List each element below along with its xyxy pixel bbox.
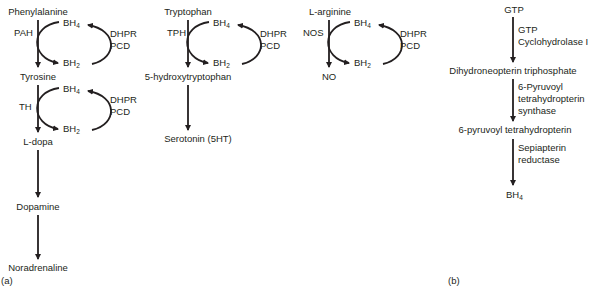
no-label: NO bbox=[322, 71, 336, 82]
6-pyruvoyl-tetrahydropterin-label: 6-pyruvoyl tetrahydropterin bbox=[459, 124, 572, 135]
phenylalanine-label: Phenylalanine bbox=[8, 6, 68, 17]
dihydroneopterin-label: Dihydroneopterin triphosphate bbox=[449, 65, 576, 76]
tph-enzyme-label: TPH bbox=[167, 27, 186, 38]
bh4-label: BH4 bbox=[63, 83, 80, 94]
pah-enzyme-label: PAH bbox=[14, 27, 33, 38]
ptps-label: synthase bbox=[518, 105, 556, 116]
sepiapterin-reductase-label: Sepiapterin bbox=[518, 142, 566, 153]
pcd-label: PCD bbox=[260, 40, 280, 51]
tryptophan-label: Tryptophan bbox=[164, 6, 212, 17]
noradrenaline-label: Noradrenaline bbox=[8, 262, 68, 273]
l-dopa-label: L-dopa bbox=[23, 136, 53, 147]
5-hydroxytryptophan-label: 5-hydroxytryptophan bbox=[145, 71, 232, 82]
dhpr-label: DHPR bbox=[110, 94, 137, 105]
sepiapterin-reductase-label: reductase bbox=[518, 154, 560, 165]
gtp-cyclohydrolase-label: Cyclohydrolase I bbox=[518, 36, 588, 47]
pcd-label: PCD bbox=[110, 40, 130, 51]
gtp-cyclohydrolase-label: GTP bbox=[518, 24, 538, 35]
th-enzyme-label: TH bbox=[19, 101, 32, 112]
bh4-product-label: BH4 bbox=[506, 189, 523, 200]
tyrosine-label: Tyrosine bbox=[20, 71, 56, 82]
dopamine-label: Dopamine bbox=[16, 201, 59, 212]
bh2-label: BH2 bbox=[213, 57, 230, 68]
l-arginine-label: L-arginine bbox=[309, 6, 351, 17]
ptps-label: 6-Pyruvoyl bbox=[518, 81, 563, 92]
dhpr-label: DHPR bbox=[400, 28, 427, 39]
gtp-label: GTP bbox=[504, 4, 524, 15]
panel-b-label: (b) bbox=[448, 275, 460, 286]
bh2-label: BH2 bbox=[63, 123, 80, 134]
serotonin-label: Serotonin (5HT) bbox=[164, 133, 232, 144]
nos-enzyme-label: NOS bbox=[303, 27, 324, 38]
panel-a-label: (a) bbox=[1, 275, 13, 286]
bh4-label: BH4 bbox=[63, 17, 80, 28]
bh4-label: BH4 bbox=[213, 17, 230, 28]
bh4-label: BH4 bbox=[354, 17, 371, 28]
pcd-label: PCD bbox=[400, 40, 420, 51]
ptps-label: tetrahydropterin bbox=[518, 93, 585, 104]
pathway-arrows bbox=[0, 0, 590, 287]
bh2-label: BH2 bbox=[63, 57, 80, 68]
pcd-label: PCD bbox=[110, 106, 130, 117]
dhpr-label: DHPR bbox=[110, 28, 137, 39]
dhpr-label: DHPR bbox=[260, 28, 287, 39]
bh2-label: BH2 bbox=[354, 57, 371, 68]
